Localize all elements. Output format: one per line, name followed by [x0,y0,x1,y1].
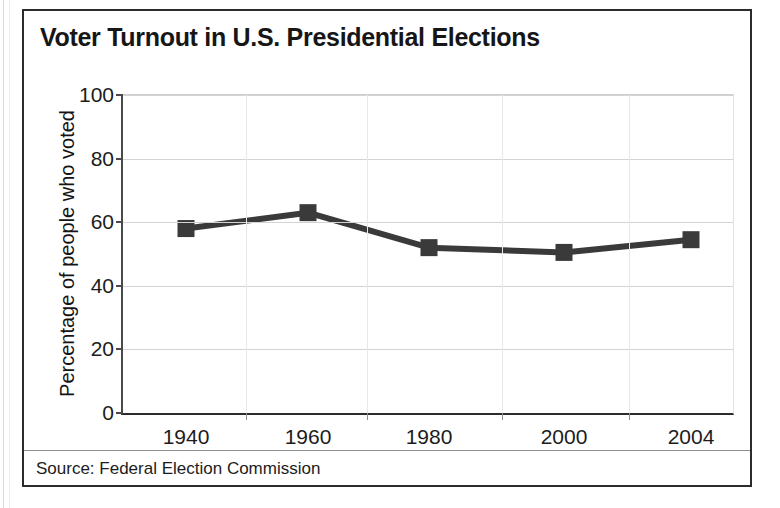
plot-area: 02040608010019401960198020002004 [121,94,734,415]
data-point-marker [421,239,438,256]
x-gridline [629,95,630,413]
y-gridline [123,159,733,160]
y-gridline [123,349,733,350]
y-tick-mark [116,94,123,96]
x-tick-label: 2000 [541,425,588,449]
source-note: Source: Federal Election Commission [36,459,320,479]
x-tick-label: 1940 [163,425,210,449]
series-line [186,213,691,253]
y-tick-label: 0 [102,401,114,425]
x-gridline [367,95,368,413]
line-series [123,95,733,413]
y-tick-mark [116,412,123,414]
y-tick-mark [116,348,123,350]
chart-figure: Voter Turnout in U.S. Presidential Elect… [22,9,752,487]
x-gridline [246,95,247,413]
x-gridline [502,95,503,413]
y-tick-label: 60 [91,210,114,234]
y-tick-mark [116,158,123,160]
x-tick-mark [367,413,368,420]
y-gridline [123,286,733,287]
y-axis-title-label: Percentage of people who voted [56,110,79,397]
x-tick-mark [502,413,503,420]
y-tick-label: 80 [91,147,114,171]
source-divider [24,450,750,451]
x-tick-mark [246,413,247,420]
x-tick-label: 2004 [668,425,715,449]
x-tick-mark [629,413,630,420]
page-title: Voter Turnout in U.S. Presidential Elect… [40,23,540,52]
y-tick-label: 20 [91,337,114,361]
y-tick-label: 100 [79,83,114,107]
y-gridline [123,222,733,223]
y-tick-mark [116,285,123,287]
y-gridline [123,95,733,96]
page-edge-line-secondary [9,0,10,508]
page-edge-line [3,0,4,508]
data-point-marker [683,231,700,248]
y-tick-mark [116,221,123,223]
y-axis-title: Percentage of people who voted [54,94,80,412]
data-point-marker [556,244,573,261]
y-tick-label: 40 [91,274,114,298]
x-tick-label: 1980 [406,425,453,449]
x-tick-label: 1960 [285,425,332,449]
data-point-marker [300,204,317,221]
